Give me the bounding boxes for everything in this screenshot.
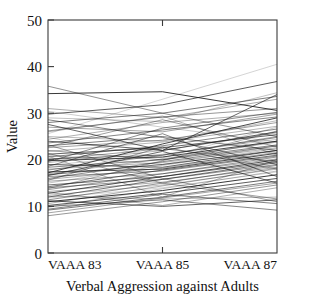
y-tick-label: 10 xyxy=(27,199,42,215)
x-axis-title: Verbal Aggression against Adults xyxy=(66,278,259,294)
y-tick-label: 30 xyxy=(27,106,42,122)
y-tick-label: 20 xyxy=(27,152,42,168)
x-category-label: VAAA 85 xyxy=(136,257,190,272)
y-axis-tick-labels: 01020304050 xyxy=(27,13,42,262)
x-category-label: VAAA 83 xyxy=(48,257,102,272)
y-tick-label: 40 xyxy=(27,59,42,75)
x-axis-category-labels: VAAA 83VAAA 85VAAA 87 xyxy=(48,257,277,272)
y-tick-label: 0 xyxy=(35,246,43,262)
y-tick-label: 50 xyxy=(27,13,42,29)
spaghetti-plot-svg: 01020304050 VAAA 83VAAA 85VAAA 87 Verbal… xyxy=(0,0,317,305)
x-category-label: VAAA 87 xyxy=(224,257,278,272)
chart-figure: 01020304050 VAAA 83VAAA 85VAAA 87 Verbal… xyxy=(0,0,317,305)
y-axis-title: Value xyxy=(4,120,20,153)
